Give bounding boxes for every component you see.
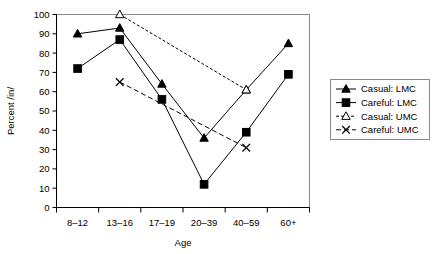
y-tick-label: 40: [39, 125, 50, 136]
x-tick-label: 17–19: [149, 217, 175, 228]
data-point-1: [116, 36, 124, 44]
legend-label: Careful: LMC: [361, 97, 417, 108]
data-point-1: [200, 181, 208, 189]
y-tick-label: 60: [39, 86, 50, 97]
y-tick-label: 80: [39, 48, 50, 59]
legend-label: Casual: LMC: [361, 83, 416, 94]
y-axis-title: Percent /in/: [5, 87, 16, 135]
legend-marker: [342, 99, 350, 107]
x-tick-label: 40–59: [233, 217, 259, 228]
legend-label: Careful: UMC: [361, 124, 419, 135]
data-point-1: [158, 96, 166, 104]
y-tick-label: 10: [39, 183, 50, 194]
data-point-1: [285, 71, 293, 79]
chart-figure: 0102030405060708090100 8–1213–1617–1920–…: [0, 0, 434, 254]
data-point-1: [74, 65, 82, 73]
x-tick-label: 20–39: [191, 217, 217, 228]
x-tick-label: 60+: [280, 217, 297, 228]
y-tick-label: 0: [44, 202, 49, 213]
chart-legend: Casual: LMCCareful: LMCCasual: UMCCarefu…: [331, 80, 430, 140]
x-tick-label: 13–16: [107, 217, 133, 228]
y-tick-label: 30: [39, 144, 50, 155]
line-chart: 0102030405060708090100 8–1213–1617–1920–…: [0, 0, 434, 254]
x-tick-label: 8–12: [67, 217, 88, 228]
x-axis-title: Age: [175, 237, 192, 248]
y-tick-label: 100: [34, 9, 50, 20]
y-tick-label: 20: [39, 163, 50, 174]
y-tick-label: 50: [39, 105, 50, 116]
y-tick-label: 70: [39, 67, 50, 78]
data-point-1: [242, 128, 250, 136]
legend-label: Casual: UMC: [361, 111, 418, 122]
legend-item-1[interactable]: Careful: LMC: [336, 97, 417, 108]
y-tick-label: 90: [39, 28, 50, 39]
